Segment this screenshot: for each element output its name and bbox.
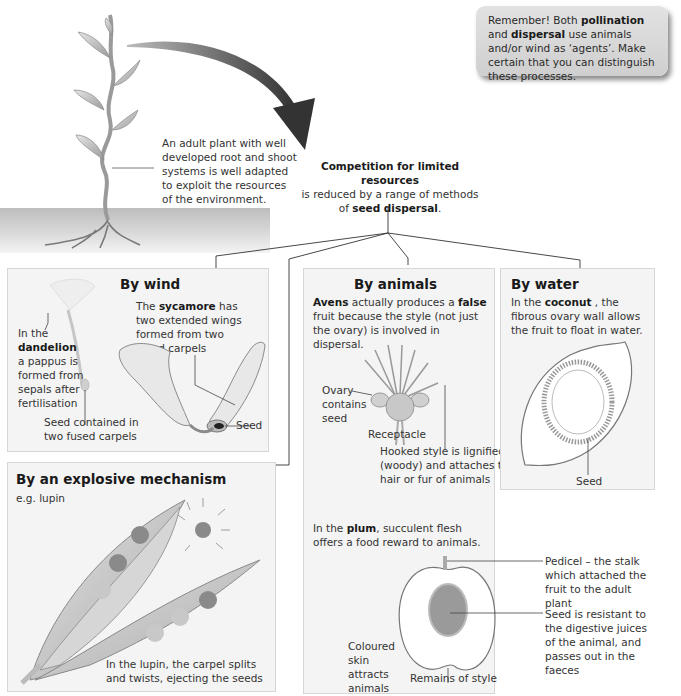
remains-of-style-label: Remains of style <box>410 672 497 686</box>
coconut-seed-label: Seed <box>576 475 602 489</box>
panel-title-animals: By animals <box>354 276 437 294</box>
label-bold-avens: Avens <box>313 296 348 308</box>
coloured-skin-label: Coloured skin attracts animals <box>348 640 408 696</box>
seed-resistant-label: Seed is resistant to the digestive juice… <box>545 608 655 678</box>
label-text: fruit because the style (not just the ov… <box>313 310 478 350</box>
panel-title-wind: By wind <box>120 276 180 294</box>
lupin-caption: In the lupin, the carpel splits and twis… <box>106 658 276 686</box>
label-bold-false: false <box>458 296 487 308</box>
lupin-pod-illustration <box>20 485 280 685</box>
coconut-illustration <box>510 340 650 480</box>
label-bold-dandelion: dandelion <box>18 341 77 353</box>
label-text: In the <box>511 296 545 308</box>
ovary-label: Ovary contains seed <box>322 384 364 426</box>
panel-title-water: By water <box>511 276 579 294</box>
coconut-description: In the coconut , the fibrous ovary wall … <box>511 296 651 338</box>
label-text: In the <box>313 522 347 534</box>
label-text: In the <box>18 327 48 339</box>
avens-description: Avens actually produces a false fruit be… <box>313 296 493 352</box>
label-bold-coconut: coconut <box>545 296 592 308</box>
pedicel-label: Pedicel – the stalk which attached the f… <box>545 555 660 611</box>
dandelion-label: In the dandelion a pappus is formed from… <box>18 327 88 411</box>
label-text: The <box>136 300 159 312</box>
sycamore-seed-label: Seed <box>236 419 262 433</box>
label-text: actually produces a <box>348 296 457 308</box>
label-bold-sycamore: sycamore <box>159 300 216 312</box>
label-text: a pappus is formed from sepals after fer… <box>18 355 83 409</box>
receptacle-label: Receptacle <box>368 428 426 442</box>
label-bold-plum: plum <box>347 522 377 534</box>
hooked-style-label: Hooked style is lignified (woody) and at… <box>380 445 510 487</box>
plum-description: In the plum, succulent flesh offers a fo… <box>313 522 488 550</box>
